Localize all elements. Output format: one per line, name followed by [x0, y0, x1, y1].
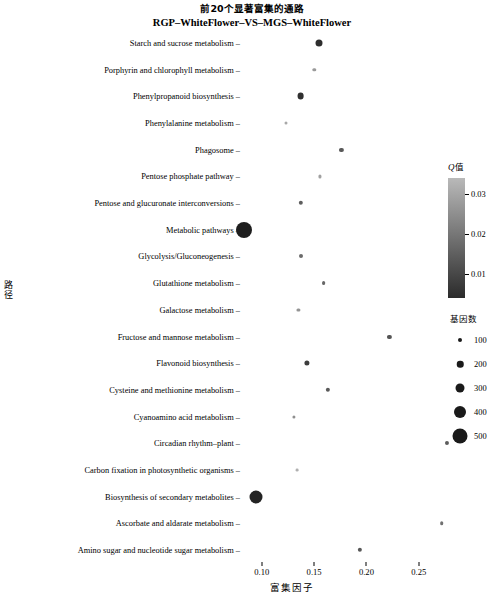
gene-count-legend-item: 400 [448, 400, 504, 424]
x-axis-tick-label: 0.10 [254, 567, 269, 577]
colorbar-tick-mark [465, 274, 469, 275]
gene-count-legend-item: 200 [448, 352, 504, 376]
x-axis-tick-mark [418, 562, 419, 566]
qvalue-colorbar [448, 178, 465, 298]
gene-count-legend-label: 400 [474, 408, 487, 417]
y-axis-label: Glutathione metabolism – [18, 279, 240, 288]
gene-count-legend-label: 200 [474, 360, 487, 369]
y-axis-labels: Starch and sucrose metabolism –Porphyrin… [18, 0, 240, 611]
y-axis-label: Biosynthesis of secondary metabolites – [18, 492, 240, 501]
y-axis-label: Porphyrin and chlorophyll metabolism – [18, 65, 240, 74]
y-axis-label: Carbon fixation in photosynthetic organi… [18, 465, 240, 474]
data-point-bubble [304, 361, 309, 366]
y-axis-label: Ascorbate and aldarate metabolism – [18, 519, 240, 528]
y-axis-label: Amino sugar and nucleotide sugar metabol… [18, 546, 240, 555]
data-point-bubble [358, 548, 362, 552]
data-point-bubble [322, 281, 326, 285]
x-axis-tick-label: 0.25 [411, 567, 426, 577]
y-axis-label: Phagosome – [18, 145, 240, 154]
y-axis-label: Phenylpropanoid biosynthesis – [18, 92, 240, 101]
y-axis-label: Glycolysis/Gluconeogenesis – [18, 252, 240, 261]
data-point-bubble [284, 122, 287, 125]
enrichment-bubble-plot: 前20个显著富集的通路 RGP–WhiteFlower–VS–MGS–White… [0, 0, 504, 611]
data-point-bubble [312, 68, 315, 71]
gene-count-legend-label: 100 [474, 336, 487, 345]
x-axis-title: 富集因子 [0, 580, 504, 594]
colorbar-tick-label: 0.02 [471, 230, 486, 239]
gene-count-legend-label: 300 [474, 384, 487, 393]
plot-area [243, 30, 448, 560]
x-axis-tick-mark [314, 562, 315, 566]
gene-count-legend-dot [456, 384, 465, 393]
gene-count-legend-dot [454, 406, 466, 418]
x-axis-tick-mark [261, 562, 262, 566]
data-point-bubble [319, 175, 322, 178]
data-point-bubble [293, 415, 296, 418]
y-axis-label: Pentose and glucuronate interconversions… [18, 199, 240, 208]
gene-count-legend-label: 500 [474, 432, 487, 441]
data-point-bubble [236, 222, 252, 238]
data-point-bubble [299, 254, 303, 258]
qvalue-legend-title: Q值 [448, 160, 464, 172]
data-point-bubble [440, 522, 444, 526]
y-axis-title: 路径 [2, 280, 15, 300]
gene-count-legend-dot [457, 361, 464, 368]
gene-count-legend-item: 100 [448, 328, 504, 352]
y-axis-label: Metabolic pathways – [18, 225, 240, 234]
y-axis-label: Phenylalanine metabolism – [18, 119, 240, 128]
y-axis-label: Starch and sucrose metabolism – [18, 39, 240, 48]
data-point-bubble [387, 334, 391, 338]
gene-count-legend-dot [458, 338, 462, 342]
data-point-bubble [316, 40, 323, 47]
qvalue-legend-cn: 值 [455, 162, 464, 172]
y-axis-label: Galactose metabolism – [18, 305, 240, 314]
gene-count-legend-item: 500 [448, 424, 504, 448]
y-axis-label: Fructose and mannose metabolism – [18, 332, 240, 341]
data-point-bubble [326, 388, 330, 392]
gene-count-legend-title: 基因数 [450, 312, 477, 324]
gene-count-legend-item: 300 [448, 376, 504, 400]
data-point-bubble [249, 490, 262, 503]
data-point-bubble [297, 93, 304, 100]
x-axis-tick-label: 0.15 [307, 567, 322, 577]
colorbar-tick-label: 0.03 [471, 190, 486, 199]
data-point-bubble [339, 148, 343, 152]
colorbar-tick-mark [465, 194, 469, 195]
data-point-bubble [298, 201, 302, 205]
y-axis-label: Pentose phosphate pathway – [18, 172, 240, 181]
data-point-bubble [297, 308, 300, 311]
data-point-bubble [296, 469, 299, 472]
x-axis-tick-mark [366, 562, 367, 566]
gene-count-legend-dot [453, 429, 468, 444]
y-axis-label: Circadian rhythm–plant – [18, 439, 240, 448]
x-axis-tick-label: 0.20 [359, 567, 374, 577]
y-axis-label: Cyanoamino acid metabolism – [18, 412, 240, 421]
y-axis-label: Cysteine and methionine metabolism – [18, 385, 240, 394]
colorbar-tick-mark [465, 234, 469, 235]
y-axis-label: Flavonoid biosynthesis – [18, 359, 240, 368]
colorbar-tick-label: 0.01 [471, 270, 486, 279]
